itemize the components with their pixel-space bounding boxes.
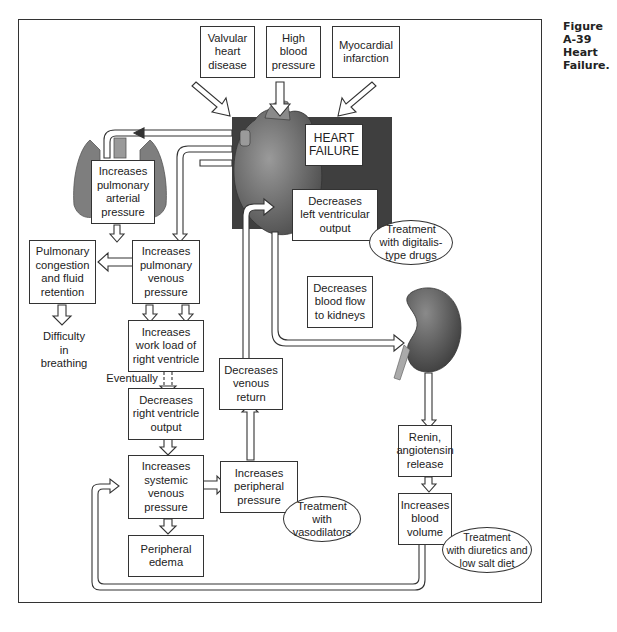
cause-valvular-heart-disease: Valvular heart disease (200, 26, 255, 78)
decreases-left-ventricular-output: Decreases left ventricular output (292, 189, 378, 241)
arrow-mi (338, 82, 376, 116)
heart-failure-label: HEART FAILURE (305, 124, 363, 166)
increases-pulmonary-venous-pressure: Increases pulmonary venous pressure (132, 240, 200, 304)
increases-workload-right-ventricle: Increases work load of right ventricle (128, 320, 204, 372)
renin-angiotensin-release: Renin, angiotensin release (398, 425, 452, 477)
increases-pulmonary-arterial-pressure: Increases pulmonary arterial pressure (91, 160, 155, 224)
decreases-right-ventricle-output: Decreases right ventricle output (128, 388, 204, 440)
peripheral-edema: Peripheral edema (128, 535, 204, 577)
increases-peripheral-pressure: Increases peripheral pressure (220, 461, 298, 513)
treatment-digitalis: Treatment with digitalis- type drugs (369, 220, 453, 265)
arrow-valvular (192, 82, 230, 116)
increases-blood-volume: Increases blood volume (398, 493, 452, 545)
pulmonary-congestion: Pulmonary congestion and fluid retention (29, 240, 96, 304)
cause-high-blood-pressure: High blood pressure (266, 26, 321, 78)
decreases-blood-flow-to-kidneys: Decreases blood flow to kidneys (307, 276, 373, 328)
decreases-venous-return: Decreases venous return (219, 358, 283, 410)
eventually-label: Eventually (104, 372, 160, 386)
treatment-diuretics: Treatment with diuretics and low salt di… (442, 527, 532, 573)
increases-systemic-venous-pressure: Increases systemic venous pressure (128, 455, 204, 519)
kidney-icon (394, 288, 461, 380)
treatment-vasodilators: Treatment with vasodilators (283, 496, 361, 542)
cause-myocardial-infarction: Myocardial infarction (332, 26, 400, 78)
difficulty-in-breathing: Difficulty in breathing (36, 330, 92, 371)
